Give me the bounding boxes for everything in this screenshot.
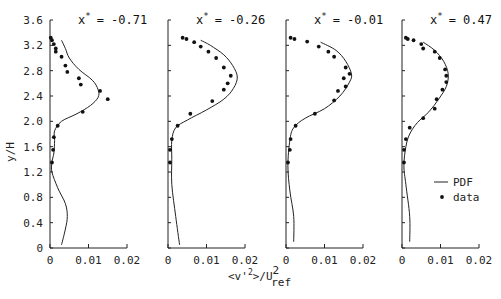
chart-figure: 00.40.81.21.62.02.42.83.23.6 y/H 00.010.…: [0, 0, 501, 299]
data-point: [404, 36, 408, 40]
data-point: [207, 50, 211, 54]
data-point: [435, 97, 439, 101]
x-tick-label: 0: [399, 254, 406, 267]
y-tick-label: 0.8: [23, 191, 43, 204]
data-point: [77, 76, 81, 80]
data-point: [433, 50, 437, 54]
data-point: [438, 56, 442, 60]
data-point: [313, 112, 317, 116]
data-point: [54, 47, 58, 51]
data-point: [52, 42, 56, 46]
panel-3: 00.010.02x*= -0.01: [283, 11, 384, 267]
data-point: [419, 42, 423, 46]
x-tick-label: 0.02: [350, 254, 377, 267]
data-point: [402, 161, 406, 165]
x-tick-label: 0.02: [114, 254, 141, 267]
data-point: [222, 66, 226, 70]
panel-2: 00.010.02x*= -0.26: [165, 11, 266, 267]
data-point: [412, 38, 416, 42]
data-point: [289, 137, 293, 141]
data-point: [421, 116, 425, 120]
panel-title: x*= -0.71: [78, 11, 147, 27]
data-point: [336, 89, 340, 93]
panels: 00.010.02x*= -0.7100.010.02x*= -0.2600.0…: [47, 11, 493, 267]
data-point: [402, 148, 406, 152]
data-point: [79, 83, 83, 87]
data-point: [185, 37, 189, 41]
panel-4: 00.010.02x*= 0.47: [399, 11, 493, 267]
y-tick-label: 3.6: [23, 14, 43, 27]
panel-title: x*= -0.01: [314, 11, 383, 27]
y-tick-label: 3.2: [23, 39, 43, 52]
pdf-curve: [51, 40, 99, 245]
data-point: [332, 99, 336, 103]
data-point: [98, 89, 102, 93]
data-point: [50, 161, 54, 165]
data-point: [222, 88, 226, 92]
x-axis-label: <v'2>/U2ref: [228, 264, 291, 289]
data-point: [344, 66, 348, 70]
x-tick-label: 0: [47, 254, 54, 267]
y-tick-label: 2.4: [23, 90, 43, 103]
data-point: [60, 55, 64, 59]
data-point: [289, 36, 293, 40]
panel-title: x*= -0.26: [196, 11, 265, 27]
data-point: [305, 40, 309, 44]
data-point: [170, 137, 174, 141]
data-point: [52, 135, 56, 139]
panel-1: 00.010.02x*= -0.71: [47, 11, 148, 267]
data-point: [214, 56, 218, 60]
x-tick-label: 0: [165, 254, 172, 267]
x-tick-label: 0: [283, 254, 290, 267]
data-point: [286, 161, 290, 165]
data-point: [293, 37, 297, 41]
data-point: [441, 88, 445, 92]
data-point: [229, 74, 233, 78]
data-point: [226, 81, 230, 85]
y-tick-label: 2.8: [23, 65, 43, 78]
data-point: [444, 80, 448, 84]
data-point: [192, 40, 196, 44]
data-point: [81, 110, 85, 114]
y-axis-tick-labels: 00.40.81.21.62.02.42.83.23.6: [23, 14, 43, 255]
data-point: [326, 50, 330, 54]
legend-marker-icon: [440, 195, 444, 199]
svg-text:<v'2>/U2ref: <v'2>/U2ref: [228, 264, 291, 289]
data-point: [51, 148, 55, 152]
data-point: [49, 36, 53, 40]
panel-title: x*= 0.47: [430, 11, 492, 27]
x-tick-label: 0.01: [427, 254, 454, 267]
y-tick-label: 1.6: [23, 141, 43, 154]
y-axis-label: y/H: [4, 142, 17, 162]
data-point: [288, 148, 292, 152]
y-tick-label: 1.2: [23, 166, 43, 179]
data-point: [176, 124, 180, 128]
data-point: [210, 99, 214, 103]
data-point: [168, 148, 172, 152]
y-tick-label: 0: [36, 242, 43, 255]
legend: PDFdata: [434, 176, 480, 204]
legend-label-pdf: PDF: [453, 176, 473, 189]
data-point: [342, 76, 346, 80]
data-point: [348, 72, 352, 76]
data-point: [181, 36, 185, 40]
data-point: [443, 68, 447, 72]
data-point: [332, 55, 336, 59]
data-point: [188, 112, 192, 116]
data-point: [421, 47, 425, 51]
y-tick-label: 0.4: [23, 217, 43, 230]
data-point: [294, 124, 298, 128]
data-point: [433, 107, 437, 111]
data-point: [106, 97, 110, 101]
x-tick-label: 0.01: [311, 254, 338, 267]
pdf-curve: [288, 42, 352, 242]
data-point: [65, 70, 69, 74]
data-point: [317, 45, 321, 49]
data-point: [56, 124, 60, 128]
pdf-curve: [172, 40, 238, 245]
pdf-curve: [404, 42, 448, 242]
x-tick-label: 0.01: [193, 254, 220, 267]
x-tick-label: 0.02: [232, 254, 259, 267]
data-point: [199, 45, 203, 49]
legend-label-data: data: [453, 191, 480, 204]
